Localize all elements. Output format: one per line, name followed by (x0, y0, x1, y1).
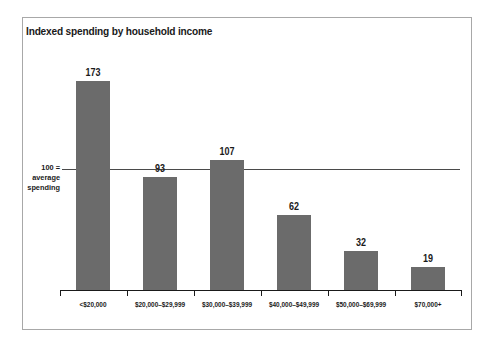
bar-value-label: 93 (130, 163, 189, 174)
reference-annotation-line-2: average (18, 173, 60, 183)
x-axis-tick (461, 290, 462, 296)
bar-group: 93 (127, 60, 193, 290)
bar-value-label: 173 (63, 67, 122, 78)
x-axis-category-label: $70,000+ (388, 301, 467, 308)
bar[interactable] (411, 267, 445, 290)
reference-line-annotation: 100 = average spending (18, 163, 60, 193)
bar-value-label: 62 (264, 201, 323, 212)
bar-group: 107 (194, 60, 260, 290)
bar[interactable] (76, 81, 110, 290)
bar-group: 32 (328, 60, 394, 290)
x-axis-tick (261, 290, 262, 296)
chart-figure: Indexed spending by household income 100… (0, 0, 498, 348)
bar[interactable] (210, 160, 244, 290)
bar-group: 19 (395, 60, 461, 290)
bar[interactable] (344, 251, 378, 290)
bar[interactable] (143, 177, 177, 290)
bar-value-label: 107 (197, 146, 256, 157)
bar[interactable] (277, 215, 311, 290)
x-axis-tick (60, 290, 61, 296)
x-axis-tick (194, 290, 195, 296)
bar-value-label: 19 (398, 253, 457, 264)
x-axis-tick (328, 290, 329, 296)
x-axis-tick (127, 290, 128, 296)
chart-title: Indexed spending by household income (26, 25, 212, 37)
reference-annotation-line-3: spending (18, 183, 60, 193)
bar-group: 173 (60, 60, 126, 290)
plot-area: 173 93 107 62 32 19 (60, 60, 460, 290)
bar-group: 62 (261, 60, 327, 290)
reference-annotation-line-1: 100 = (18, 163, 60, 173)
x-axis-tick (395, 290, 396, 296)
reference-line-100 (62, 169, 460, 170)
bar-value-label: 32 (331, 237, 390, 248)
